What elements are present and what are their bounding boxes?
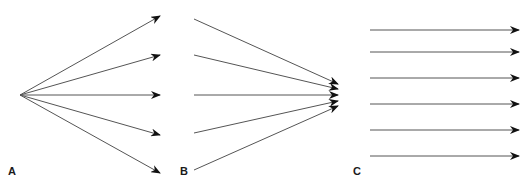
ray-diagram: [0, 0, 532, 188]
arrow-ray: [20, 16, 160, 95]
arrow-ray: [194, 106, 338, 170]
panel-b-label: B: [180, 165, 188, 177]
panel-c-label: C: [353, 165, 361, 177]
arrow-ray: [20, 55, 160, 95]
panel-c-parallel-rays: [370, 30, 519, 156]
arrow-ray: [194, 55, 338, 89]
panel-a-diverging-rays: [20, 16, 160, 173]
arrow-ray: [194, 19, 338, 84]
panel-a-label: A: [8, 165, 16, 177]
arrow-ray: [194, 101, 338, 133]
arrow-ray: [20, 95, 160, 173]
arrow-ray: [20, 95, 160, 135]
panel-b-converging-rays: [194, 19, 338, 170]
